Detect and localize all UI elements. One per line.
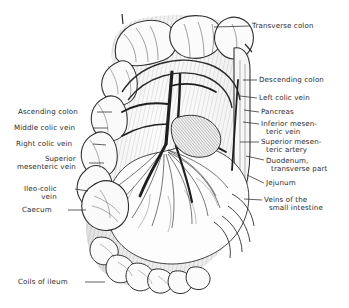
label-jejunum: Jejunum	[266, 179, 296, 187]
label-left-colic-vein: Left colic vein	[259, 94, 310, 102]
label-transverse-colon: Transverse colon	[252, 22, 314, 30]
label-veins-of-the-small-intestine: Veins of thesmall intestine	[264, 196, 323, 212]
label-inferior-mesenteric-vein: Inferior mesen-teric vein	[261, 120, 317, 136]
label-pancreas: Pancreas	[261, 108, 294, 116]
label-superior-mesenteric-artery: Superior mesen-teric artery	[261, 138, 321, 154]
label-ileo-colic-vein: Ileo-colicvein	[24, 185, 57, 201]
label-caecum: Caecum	[22, 206, 52, 214]
label-middle-colic-vein: Middle colic vein	[14, 124, 75, 132]
label-coils-of-ileum: Coils of ileum	[18, 278, 68, 286]
label-descending-colon: Descending colon	[259, 76, 324, 84]
leader-jejunum	[247, 175, 264, 183]
label-ascending-colon: Ascending colon	[18, 108, 78, 116]
anatomical-figure: Transverse colonDescending colonLeft col…	[0, 0, 349, 308]
label-duodenum-transverse-part: Duodenum,transverse part	[266, 157, 327, 173]
label-right-colic-vein: Right colic vein	[16, 140, 72, 148]
label-superior-mesenteric-vein: Superiormesenteric vein	[14, 155, 76, 171]
caecum	[82, 181, 129, 231]
